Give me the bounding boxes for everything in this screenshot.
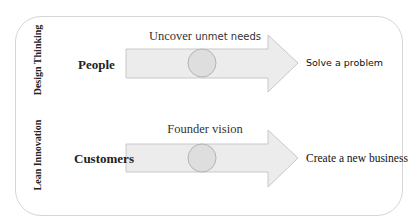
caption-part-2: unmet needs	[195, 31, 261, 42]
caption-founder-vision: Founder vision	[125, 122, 285, 137]
source-label-customers: Customers	[74, 151, 134, 167]
circle-marker-icon	[188, 49, 216, 77]
circle-marker-icon	[188, 144, 216, 172]
arrow-lean-innovation	[126, 130, 298, 187]
target-label-solve-a-problem: Solve a problem	[306, 57, 383, 68]
source-label-people: People	[78, 57, 115, 73]
category-label-lean-innovation: Lean Innovation	[32, 105, 44, 205]
caption-uncover-unmet-needs: Uncover unmet needs	[125, 29, 285, 44]
caption-part-1: Uncover	[149, 29, 192, 43]
category-label-design-thinking: Design Thinking	[32, 10, 44, 110]
target-label-create-a-new-business: Create a new business	[306, 152, 408, 164]
